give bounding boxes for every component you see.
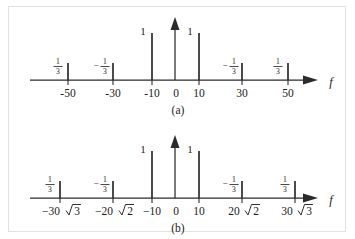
amplitude-denominator-b-6: 3 bbox=[232, 185, 236, 194]
amplitude-minus-b-2: − bbox=[93, 178, 98, 188]
axis-label-f-a: f bbox=[329, 75, 334, 89]
axis-arrowhead-up-b bbox=[171, 135, 180, 148]
plot-a-svg: f 1 3 -50 − 1 3 -30 1 -10 0 bbox=[0, 0, 355, 120]
amplitude-denominator-a-1: 3 bbox=[56, 67, 60, 76]
tick-label-a-5: 10 bbox=[193, 87, 205, 99]
tick-prefix-b-7: 30 bbox=[281, 205, 293, 217]
plot-caption-b: (b) bbox=[171, 222, 185, 235]
amplitude-numerator-b-6: 1 bbox=[232, 175, 236, 184]
amplitude-denominator-a-6: 3 bbox=[232, 67, 236, 76]
amplitude-numerator-b-7: 1 bbox=[283, 175, 287, 184]
tick-label-a-7: 50 bbox=[282, 87, 294, 99]
spectrum-plot-b: f 1 3 −30 3 − 1 3 −20 bbox=[0, 113, 355, 239]
tick-label-b-2: −20 2 bbox=[95, 205, 134, 218]
amplitude-denominator-a-7: 3 bbox=[276, 67, 280, 76]
tick-label-a-3: -10 bbox=[144, 87, 160, 99]
amplitude-minus-b-6: − bbox=[222, 178, 227, 188]
tick-radicand-b-2: 2 bbox=[127, 205, 133, 217]
tick-radicand-b-7: 3 bbox=[306, 205, 312, 217]
amplitude-denominator-b-7: 3 bbox=[283, 185, 287, 194]
axis-arrowhead-up-a bbox=[171, 17, 180, 30]
amplitude-denominator-a-2: 3 bbox=[103, 67, 107, 76]
amplitude-denominator-b-2: 3 bbox=[103, 185, 107, 194]
figure-container: f 1 3 -50 − 1 3 -30 1 -10 0 bbox=[0, 0, 355, 239]
amplitude-label-b-5: 1 bbox=[187, 143, 193, 155]
spectrum-plot-a: f 1 3 -50 − 1 3 -30 1 -10 0 bbox=[0, 0, 355, 120]
tick-label-b-7: 30 3 bbox=[281, 205, 313, 218]
amplitude-numerator-b-1: 1 bbox=[48, 175, 52, 184]
tick-label-b-1: −30 3 bbox=[42, 205, 81, 218]
axis-arrowhead-right-a bbox=[303, 76, 318, 85]
amplitude-label-a-5: 1 bbox=[187, 25, 193, 37]
tick-label-b-6: 20 2 bbox=[228, 205, 260, 218]
amplitude-minus-a-6: − bbox=[222, 60, 227, 70]
tick-prefix-b-1: −30 bbox=[42, 205, 60, 217]
tick-label-b-4: 0 bbox=[173, 205, 179, 217]
amplitude-numerator-a-6: 1 bbox=[232, 57, 236, 66]
tick-prefix-b-2: −20 bbox=[95, 205, 113, 217]
tick-label-a-2: -30 bbox=[105, 87, 121, 99]
tick-prefix-b-6: 20 bbox=[228, 205, 240, 217]
tick-radicand-b-1: 3 bbox=[74, 205, 80, 217]
amplitude-numerator-a-2: 1 bbox=[103, 57, 107, 66]
plot-b-svg: f 1 3 −30 3 − 1 3 −20 bbox=[0, 113, 355, 239]
amplitude-label-a-3: 1 bbox=[140, 25, 146, 37]
axis-label-f-b: f bbox=[329, 193, 334, 207]
tick-label-b-5: 10 bbox=[193, 205, 205, 217]
amplitude-minus-a-2: − bbox=[93, 60, 98, 70]
axis-arrowhead-right-b bbox=[303, 194, 318, 203]
tick-label-a-4: 0 bbox=[173, 87, 179, 99]
tick-label-a-1: -50 bbox=[60, 87, 76, 99]
amplitude-numerator-a-1: 1 bbox=[56, 57, 60, 66]
amplitude-numerator-b-2: 1 bbox=[103, 175, 107, 184]
amplitude-denominator-b-1: 3 bbox=[48, 185, 52, 194]
tick-radicand-b-6: 2 bbox=[253, 205, 259, 217]
tick-label-b-3: −10 bbox=[143, 205, 161, 217]
amplitude-numerator-a-7: 1 bbox=[276, 57, 280, 66]
amplitude-label-b-3: 1 bbox=[140, 143, 146, 155]
tick-label-a-6: 30 bbox=[236, 87, 248, 99]
